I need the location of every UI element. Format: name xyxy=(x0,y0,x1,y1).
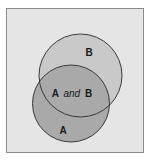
set-a-label: A xyxy=(59,125,66,136)
intersection-label: A and B xyxy=(52,88,92,99)
set-b-label: B xyxy=(85,47,92,58)
intersection-label-and: and xyxy=(63,88,80,99)
intersection-label-a: A xyxy=(52,88,59,99)
venn-diagram: B A and B A xyxy=(0,0,152,162)
intersection-label-b: B xyxy=(85,88,92,99)
